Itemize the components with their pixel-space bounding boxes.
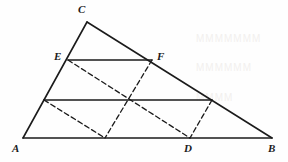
dashed-F-to-K [105, 60, 152, 138]
side-CB [87, 22, 272, 138]
vertex-label-F: F [157, 51, 164, 62]
vertex-label-C: C [78, 4, 85, 15]
vertex-label-E: E [54, 51, 61, 62]
geometry-canvas [0, 0, 288, 162]
dashed-G-to-K [44, 100, 105, 138]
vertex-label-D: D [184, 143, 192, 154]
dashed-H-to-D [190, 100, 212, 138]
geometry-figure: MMMMMMM MMMMMM MMMM C E F A D B [0, 0, 288, 162]
vertex-label-A: A [12, 143, 19, 154]
vertex-label-B: B [268, 143, 275, 154]
solid-segment-layer [23, 22, 272, 138]
side-AC [23, 22, 87, 138]
dashed-segment-layer [44, 60, 212, 138]
